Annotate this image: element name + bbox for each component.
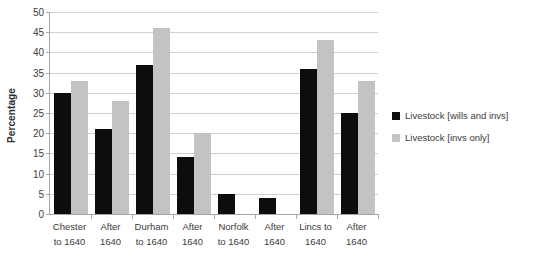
x-axis-category-labels: Chesterto 1640After1640Durhamto 1640Afte… (49, 219, 377, 263)
y-axis-tick-label: 40 (33, 47, 44, 58)
bar-chart: Percentage 50454035302520151050 Chestert… (0, 0, 538, 266)
y-axis-tick-label: 50 (33, 7, 44, 18)
chart-legend: Livestock [wills and invs]Livestock [inv… (392, 110, 538, 154)
bar[interactable] (194, 133, 211, 214)
bar[interactable] (136, 65, 153, 214)
bar[interactable] (259, 198, 276, 214)
legend-item[interactable]: Livestock [invs only] (392, 132, 538, 143)
y-axis-tick-label: 25 (33, 108, 44, 119)
x-axis-category-label: After1640 (329, 219, 384, 249)
legend-swatch-icon (392, 112, 400, 120)
x-axis-category-label-line1: After (264, 221, 284, 232)
legend-item-label: Livestock [wills and invs] (405, 110, 508, 121)
x-axis-category-label-line1: After (100, 221, 120, 232)
bar[interactable] (71, 81, 88, 214)
plot-area (49, 12, 378, 215)
bar-group (259, 12, 293, 214)
bar[interactable] (300, 69, 317, 214)
legend-item-label: Livestock [invs only] (405, 132, 489, 143)
y-axis-tick-label: 35 (33, 67, 44, 78)
bars-layer (50, 12, 378, 214)
bar[interactable] (317, 40, 334, 214)
y-axis-title-label: Percentage (6, 88, 17, 143)
x-axis-category-label-line1: Norfolk (218, 221, 248, 232)
bar-group (300, 12, 334, 214)
bar-group (54, 12, 88, 214)
y-axis-tick-mark (46, 214, 50, 215)
x-axis-category-label-line2: 1640 (329, 234, 384, 249)
x-axis-category-label-line1: Durham (135, 221, 169, 232)
x-axis-category-label-line1: After (346, 221, 366, 232)
bar[interactable] (112, 101, 129, 214)
bar-group (341, 12, 375, 214)
bar-group (95, 12, 129, 214)
bar-group (136, 12, 170, 214)
bar[interactable] (95, 129, 112, 214)
bar[interactable] (153, 28, 170, 214)
bar-group (218, 12, 252, 214)
legend-swatch-icon (392, 134, 400, 142)
bar-group (177, 12, 211, 214)
y-axis-tick-label: 30 (33, 87, 44, 98)
y-axis-tick-labels: 50454035302520151050 (22, 12, 48, 214)
bar[interactable] (358, 81, 375, 214)
bar[interactable] (218, 194, 235, 214)
bar[interactable] (177, 157, 194, 214)
y-axis-tick-label: 10 (33, 168, 44, 179)
y-axis-tick-label: 20 (33, 128, 44, 139)
y-axis-tick-label: 45 (33, 27, 44, 38)
legend-item[interactable]: Livestock [wills and invs] (392, 110, 538, 121)
y-axis-tick-label: 15 (33, 148, 44, 159)
bar[interactable] (54, 93, 71, 214)
x-axis-category-label-line1: Lincs to (299, 221, 332, 232)
y-axis-tick-label: 5 (38, 188, 44, 199)
x-axis-category-label-line1: Chester (53, 221, 86, 232)
y-axis-tick-label: 0 (38, 209, 44, 220)
bar[interactable] (341, 113, 358, 214)
x-axis-category-label-line1: After (182, 221, 202, 232)
y-axis-title: Percentage (0, 0, 22, 230)
